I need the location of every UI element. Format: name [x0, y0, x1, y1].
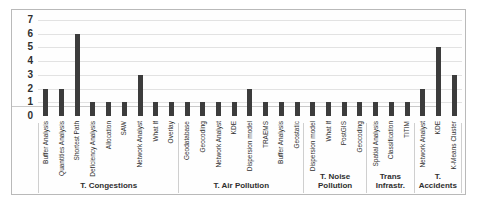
group-label: T. Accidents: [419, 172, 457, 190]
group-band: T. Noise Pollution: [303, 123, 366, 193]
y-tick-label-4: 4: [27, 56, 33, 66]
bar-slot: [336, 20, 352, 116]
group-band: Trans Infrastr.: [366, 123, 413, 193]
bar-slot: [38, 20, 54, 116]
bar-slot: [69, 20, 85, 116]
bar-slot: [101, 20, 117, 116]
bar[interactable]: [200, 102, 205, 116]
y-tick-label-3: 3: [27, 70, 33, 80]
bar-slot: [179, 20, 195, 116]
bar[interactable]: [405, 102, 410, 116]
bar-slot: [321, 20, 337, 116]
bar[interactable]: [185, 102, 190, 116]
group-label: Trans Infrastr.: [376, 172, 405, 190]
group-label: T. Congestions: [80, 181, 137, 190]
y-tick-label-5: 5: [27, 42, 33, 52]
y-tick-label-0: 0: [27, 111, 33, 121]
bar-slot: [399, 20, 415, 116]
bar[interactable]: [169, 102, 174, 116]
bar[interactable]: [326, 102, 331, 116]
bar-slot: [258, 20, 274, 116]
bar-slot: [85, 20, 101, 116]
bar-slot: [289, 20, 305, 116]
bar-series: [38, 20, 462, 116]
bar[interactable]: [420, 89, 425, 116]
group-band: T. Congestions: [38, 123, 178, 193]
bar-slot: [446, 20, 462, 116]
bar-slot: [148, 20, 164, 116]
bar-slot: [226, 20, 242, 116]
bar-slot: [195, 20, 211, 116]
group-axis-labels: T. CongestionsT. Air PollutionT. Noise P…: [38, 123, 462, 193]
bar[interactable]: [216, 102, 221, 116]
bar[interactable]: [357, 102, 362, 116]
bar[interactable]: [122, 102, 127, 116]
bar[interactable]: [373, 102, 378, 116]
bar[interactable]: [43, 89, 48, 116]
bar-slot: [211, 20, 227, 116]
bar-slot: [368, 20, 384, 116]
bar[interactable]: [75, 34, 80, 116]
bar-slot: [431, 20, 447, 116]
group-label: T. Noise Pollution: [318, 172, 352, 190]
y-tick-label-7: 7: [27, 15, 33, 25]
bar-slot: [54, 20, 70, 116]
bar[interactable]: [153, 102, 158, 116]
bar[interactable]: [263, 102, 268, 116]
bar[interactable]: [342, 102, 347, 116]
chart-figure: 01234567 Buffer AnalysisQuantities Analy…: [11, 9, 466, 195]
bar[interactable]: [389, 102, 394, 116]
bar-slot: [117, 20, 133, 116]
bar-slot: [242, 20, 258, 116]
group-band: T. Air Pollution: [178, 123, 303, 193]
bar[interactable]: [436, 47, 441, 116]
bar[interactable]: [138, 75, 143, 116]
bar-slot: [305, 20, 321, 116]
group-band: T. Accidents: [414, 123, 462, 193]
bar[interactable]: [106, 102, 111, 116]
y-tick-label-2: 2: [27, 84, 33, 94]
bar[interactable]: [452, 75, 457, 116]
group-label: T. Air Pollution: [213, 181, 269, 190]
bar[interactable]: [279, 102, 284, 116]
bar-slot: [383, 20, 399, 116]
y-axis: 01234567: [12, 10, 36, 116]
y-tick-label-6: 6: [27, 29, 33, 39]
bar-slot: [132, 20, 148, 116]
bar[interactable]: [310, 102, 315, 116]
bar[interactable]: [90, 102, 95, 116]
bar-slot: [164, 20, 180, 116]
bar-slot: [274, 20, 290, 116]
bar-slot: [352, 20, 368, 116]
bar[interactable]: [295, 102, 300, 116]
bar[interactable]: [247, 89, 252, 116]
bar[interactable]: [59, 89, 64, 116]
bar[interactable]: [232, 102, 237, 116]
bar-slot: [415, 20, 431, 116]
